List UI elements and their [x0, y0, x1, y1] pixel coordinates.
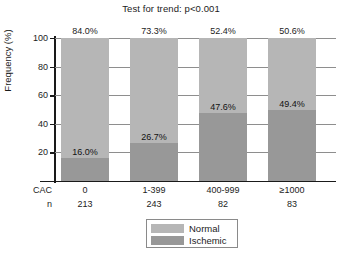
bar-label-normal: 73.3% [118, 26, 190, 36]
bar-label-normal: 52.4% [187, 26, 259, 36]
x-tick-label-cac-ge-1000: ≥1000 [256, 185, 328, 195]
x-tick-label-cac-0: 0 [49, 185, 121, 195]
legend-swatch-ischemic [151, 236, 184, 245]
chart-figure: Test for trend: p<0.001 Frequency (%) 10… [0, 0, 342, 255]
y-tick-label-80: 80 [22, 63, 48, 72]
bar-label-ischemic: 16.0% [55, 147, 115, 157]
legend-label-normal: Normal [189, 223, 220, 234]
bar-segment-ischemic[interactable] [61, 158, 109, 181]
bar-group-cac-ge-1000[interactable]: 49.4% [268, 38, 316, 181]
bar-label-normal: 50.6% [256, 26, 328, 36]
y-tick-label-60: 60 [22, 91, 48, 100]
y-tick-label-20: 20 [22, 148, 48, 157]
y-axis-label: Frequency (%) [2, 1, 13, 121]
bar-segment-normal[interactable] [61, 38, 109, 158]
x-count-value-cac-0: 213 [49, 199, 121, 209]
bar-group-cac-1-399[interactable]: 26.7% [130, 38, 178, 181]
x-axis-row-label-cac: CAC [6, 185, 52, 195]
bar-segment-ischemic[interactable] [199, 113, 247, 181]
y-tick-label-100: 100 [22, 34, 48, 43]
chart-legend: Normal Ischemic [146, 219, 238, 248]
bar-label-ischemic: 26.7% [124, 132, 184, 142]
bar-label-ischemic: 49.4% [262, 99, 322, 109]
bar-segment-ischemic[interactable] [268, 110, 316, 181]
bar-label-ischemic: 47.6% [193, 102, 253, 112]
bar-group-cac-0[interactable]: 16.0% [61, 38, 109, 181]
x-axis-row-label-n: n [6, 199, 52, 209]
x-count-value-cac-ge-1000: 83 [256, 199, 328, 209]
bar-segment-normal[interactable] [130, 38, 178, 143]
plot-area: 16.0% 84.0% 26.7% 73.3% 47.6% 52.4% 49.4… [55, 38, 336, 181]
bar-label-normal: 84.0% [49, 26, 121, 36]
bar-segment-ischemic[interactable] [130, 143, 178, 181]
legend-label-ischemic: Ischemic [189, 235, 226, 246]
x-tick-label-cac-400-999: 400-999 [187, 185, 259, 195]
x-tick-label-cac-1-399: 1-399 [118, 185, 190, 195]
x-count-value-cac-400-999: 82 [187, 199, 259, 209]
chart-title: Test for trend: p<0.001 [0, 3, 342, 14]
bar-group-cac-400-999[interactable]: 47.6% [199, 38, 247, 181]
legend-swatch-normal [151, 224, 184, 233]
y-tick-label-40: 40 [22, 120, 48, 129]
x-count-value-cac-1-399: 243 [118, 199, 190, 209]
